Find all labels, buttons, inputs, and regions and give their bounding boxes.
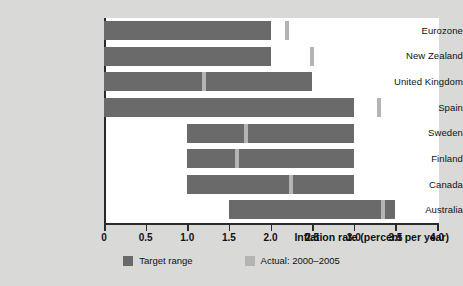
target-range-bar <box>187 149 354 168</box>
category-label-sweden: Sweden <box>371 127 463 138</box>
category-label-new-zealand: New Zealand <box>371 50 463 61</box>
category-label-eurozone: Eurozone <box>371 25 463 36</box>
actual-rate-marker <box>244 124 248 143</box>
legend-label: Actual: 2000–2005 <box>261 255 340 266</box>
x-axis-title: Inflation rate (percent per year) <box>0 231 449 243</box>
chart-legend: Target rangeActual: 2000–2005 <box>0 255 463 266</box>
legend-label: Target range <box>139 255 192 266</box>
actual-rate-marker <box>202 72 206 91</box>
legend-entry: Target range <box>123 255 192 266</box>
category-label-canada: Canada <box>371 179 463 190</box>
plot-area <box>104 18 437 223</box>
target-range-bar <box>104 98 354 117</box>
target-range-bar <box>187 175 354 194</box>
target-range-bar <box>104 21 271 40</box>
actual-rate-marker <box>235 149 239 168</box>
actual-rate-marker <box>310 47 314 66</box>
category-label-finland: Finland <box>371 153 463 164</box>
inflation-target-chart: EurozoneNew ZealandUnited KingdomSpainSw… <box>0 0 463 286</box>
legend-entry: Actual: 2000–2005 <box>245 255 340 266</box>
category-label-spain: Spain <box>371 102 463 113</box>
legend-swatch-icon <box>123 256 133 266</box>
actual-rate-marker <box>289 175 293 194</box>
target-range-bar <box>187 124 354 143</box>
category-label-australia: Australia <box>371 204 463 215</box>
target-range-bar <box>104 47 271 66</box>
target-range-bar <box>104 72 312 91</box>
legend-swatch-icon <box>245 256 255 266</box>
actual-rate-marker <box>285 21 289 40</box>
category-label-united-kingdom: United Kingdom <box>371 76 463 87</box>
